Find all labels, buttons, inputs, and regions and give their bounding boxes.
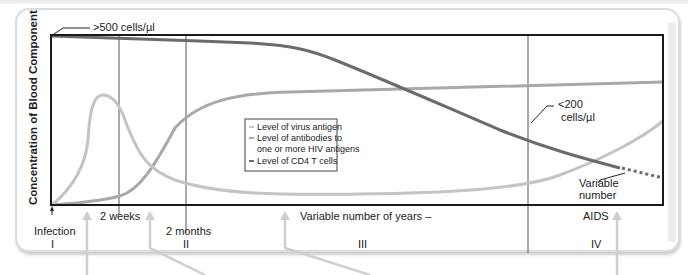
cd4-dotted-continuation: [622, 168, 663, 178]
chart-svg: >500 cells/µl <200 cells/µl Variable num…: [0, 0, 688, 275]
tick-2-weeks: 2 weeks: [100, 210, 141, 222]
variable-label-2: number: [579, 189, 617, 201]
cd4-low-label-1: <200: [558, 98, 583, 110]
legend-virus: Level of virus antigen: [257, 122, 342, 132]
tick-2-months: 2 months: [166, 225, 212, 237]
tick-years: Variable number of years –: [300, 210, 432, 222]
legend-antibody-1: Level of antibodies to: [257, 133, 342, 143]
panel-edge: [668, 22, 676, 242]
tick-aids: AIDS: [583, 210, 609, 222]
infection-arrowhead: [50, 206, 54, 211]
stage-infection-label: Infection: [34, 225, 76, 237]
top-annotation: >500 cells/µl: [93, 21, 155, 33]
stage-1: I: [51, 238, 54, 250]
legend-cd4: Level of CD4 T cells: [257, 156, 338, 166]
cd4-low-label-2: cells/µl: [561, 111, 595, 123]
stage-3: III: [358, 238, 367, 250]
stage-2: II: [183, 238, 189, 250]
y-axis-label: Concentration of Blood Component: [27, 10, 39, 205]
legend: Level of virus antigen Level of antibodi…: [245, 119, 360, 171]
legend-antibody-2: one or more HIV antigens: [257, 144, 360, 154]
variable-label-1: Variable: [579, 177, 619, 189]
stage-4: IV: [591, 238, 602, 250]
cd4-low-leader: [531, 106, 554, 123]
